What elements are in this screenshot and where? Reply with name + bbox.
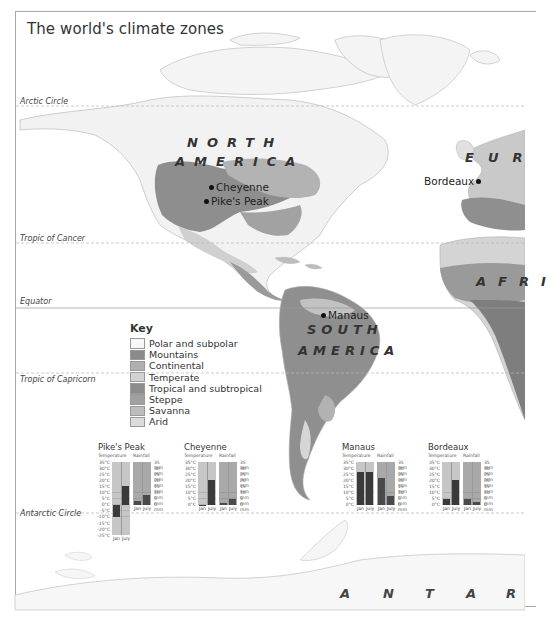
month-label: July [122,536,130,541]
temperature-tick: 30°C [340,466,354,471]
chart-title: Pike's Peak [98,442,145,452]
rainfall-tick: 0 mm [398,502,407,512]
swatch-mountains [130,350,145,360]
temperature-tick: 20°C [340,478,354,483]
temperature-tick: 5°C [426,496,440,501]
swatch-temperate [130,372,145,382]
temperature-bar-july [122,486,129,504]
key-item-continental: Continental [130,360,262,371]
rainfall-subtitle: Rainfall [219,453,236,458]
rainfall-bar-july [473,502,480,504]
temperature-tick: 5°C [96,496,110,501]
antarctica-letter-4: A [466,586,476,601]
swatch-polar [130,338,145,348]
antarctica-letter-2: N [383,586,394,601]
temperature-tick: 5°C [182,496,196,501]
temperature-tick: 25°C [426,472,440,477]
swatch-arid [130,417,145,427]
chart-title: Bordeaux [428,442,469,452]
chart-title: Manaus [342,442,375,452]
key-item-steppe: Steppe [130,394,262,405]
temperature-bar-jan [443,499,450,505]
temperature-bar-jan [113,505,120,517]
climate-chart-pike-s-peak: Pike's PeakTemperatureRainfall35°C30°C25… [98,442,145,452]
temperature-tick: 30°C [182,466,196,471]
antarctic-islands [55,552,95,578]
city-pikes-peak[interactable]: Pike's Peak [204,195,269,207]
temperature-subtitle: Temperature [342,453,371,458]
temperature-tick: 30°C [96,466,110,471]
temperature-tick: 30°C [426,466,440,471]
month-label: Jan [113,536,120,541]
temperature-tick: 10°C [182,490,196,495]
rainfall-subtitle: Rainfall [463,453,480,458]
month-label: July [366,506,374,511]
antarctic-peninsula [300,520,348,561]
swatch-savanna [130,406,145,416]
city-marker-icon [476,179,481,184]
city-name: Pike's Peak [211,195,269,207]
panel-divider [472,462,473,505]
month-label: July [208,506,216,511]
swatch-continental [130,361,145,371]
climate-chart-manaus: ManausTemperatureRainfall35°C30°C25°C20°… [342,442,375,452]
temperature-bar-july [452,480,459,504]
rainfall-bar-july [143,495,150,505]
south-america-label-line1: SOUTH [307,322,383,337]
greenland [380,35,470,105]
month-label: July [473,506,481,511]
month-label: July [452,506,460,511]
temperature-tick: 0°C [96,502,110,507]
temperature-tick: 0°C [340,502,354,507]
temperature-tick: 35°C [182,460,196,465]
chart-title: Cheyenne [184,442,227,452]
temperature-tick: 15°C [340,484,354,489]
month-label: Jan [464,506,471,511]
city-marker-icon [209,185,214,190]
month-label: Jan [378,506,385,511]
temperature-tick: 0°C [426,502,440,507]
city-name: Manaus [328,309,369,321]
rainfall-bar-july [387,496,394,505]
city-cheyenne[interactable]: Cheyenne [209,181,269,193]
month-label: Jan [220,506,227,511]
city-name: Cheyenne [216,181,269,193]
temperature-tick: 25°C [340,472,354,477]
month-label: Jan [357,506,364,511]
temperature-tick: 20°C [426,478,440,483]
key-item-savanna: Savanna [130,405,262,416]
temperature-tick: 35°C [96,460,110,465]
temperature-tick: -25°C [96,533,110,538]
tropic-of-cancer-label: Tropic of Cancer [20,234,85,243]
city-marker-icon [321,313,326,318]
rainfall-tick: 0 mm [154,502,163,512]
temperature-tick: 35°C [426,460,440,465]
climate-chart-bordeaux: BordeauxTemperatureRainfall35°C30°C25°C2… [428,442,469,452]
north-america-label-line1: NORTH [187,135,283,150]
climate-chart-cheyenne: CheyenneTemperatureRainfall35°C30°C25°C2… [184,442,227,452]
key-item-polar: Polar and subpolar [130,338,262,349]
antarctica-letter-3: T [425,586,434,601]
temperature-tick: 15°C [182,484,196,489]
temperature-tick: 25°C [182,472,196,477]
city-manaus[interactable]: Manaus [321,309,369,321]
swatch-tropical [130,383,145,393]
rainfall-tick: 0 mm [484,502,493,512]
europe-label: EUR [465,150,536,165]
temperature-tick: 0°C [182,502,196,507]
month-label: Jan [443,506,450,511]
city-bordeaux[interactable]: Bordeaux [424,175,481,187]
month-label: July [229,506,237,511]
rainfall-bar-jan [220,503,227,504]
key-item-tropical: Tropical and subtropical [130,383,262,394]
map-title: The world's climate zones [27,20,224,38]
temperature-tick: -15°C [96,521,110,526]
city-marker-icon [204,199,209,204]
antarctic-circle-label: Antarctic Circle [20,509,81,518]
equator-label: Equator [20,297,51,306]
antarctica-land [15,554,525,610]
temperature-bar-july [366,472,373,505]
north-america-label-line2: AMERICA [175,154,304,169]
temperature-tick: 10°C [340,490,354,495]
